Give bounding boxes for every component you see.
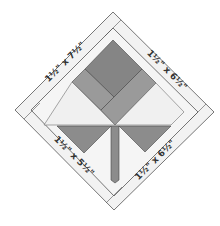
- tree-trunk: [111, 126, 119, 183]
- tree-block-diagram: 1½" x 7½" 1½" x 6½" 1½" x 5½" 1½" x 6½": [0, 0, 220, 226]
